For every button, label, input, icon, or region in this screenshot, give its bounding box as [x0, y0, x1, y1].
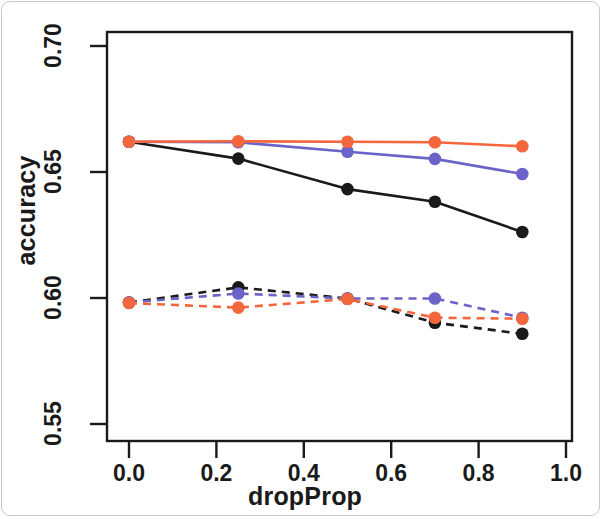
series-line-blue-solid [129, 142, 522, 174]
x-tick-label-0.0: 0.0 [94, 460, 164, 487]
y-tick-label-0.65: 0.65 [40, 141, 67, 203]
data-series-group [123, 135, 529, 340]
y-axis-title: accuracy [12, 131, 41, 291]
accuracy-vs-dropprop-chart [0, 0, 603, 519]
y-tick-label-0.60: 0.60 [40, 267, 67, 329]
plot-frame [107, 32, 572, 441]
data-point-red-solid-4 [516, 140, 529, 153]
axis-ticks [90, 46, 566, 458]
x-tick-label-0.6: 0.6 [356, 460, 426, 487]
data-point-blue-solid-3 [429, 153, 442, 166]
data-point-red-solid-3 [429, 136, 442, 149]
x-tick-label-1.0: 1.0 [531, 460, 601, 487]
data-point-red-solid-2 [341, 136, 354, 149]
data-point-black-solid-4 [516, 226, 529, 239]
data-point-red-solid-1 [232, 135, 245, 148]
x-tick-label-0.2: 0.2 [181, 460, 251, 487]
figure-container: accuracy dropProp 0.550.600.650.70 0.00.… [0, 0, 603, 519]
data-point-blue-dashed-3 [429, 292, 442, 305]
x-tick-label-0.8: 0.8 [444, 460, 514, 487]
x-tick-label-0.4: 0.4 [269, 460, 339, 487]
data-point-red-dashed-0 [123, 297, 136, 310]
data-point-black-solid-1 [232, 152, 245, 165]
data-point-red-dashed-3 [429, 311, 442, 324]
data-point-black-solid-2 [341, 183, 354, 196]
y-tick-label-0.70: 0.70 [40, 15, 67, 77]
data-point-red-dashed-1 [232, 301, 245, 314]
data-point-red-dashed-4 [516, 312, 529, 325]
series-line-red-dashed [129, 299, 522, 319]
data-point-black-dashed-4 [516, 328, 529, 341]
data-point-red-dashed-2 [341, 293, 354, 306]
y-tick-label-0.55: 0.55 [40, 393, 67, 455]
series-line-black-solid [129, 142, 522, 232]
data-point-blue-dashed-1 [232, 287, 245, 300]
series-line-black-dashed [129, 287, 522, 333]
series-line-red-solid [129, 141, 522, 146]
data-point-red-solid-0 [123, 136, 136, 149]
data-point-black-solid-3 [429, 195, 442, 208]
data-point-blue-solid-4 [516, 168, 529, 181]
